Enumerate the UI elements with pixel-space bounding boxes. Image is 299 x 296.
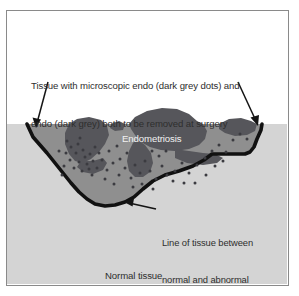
microscopic-endo-dot: [61, 174, 64, 177]
microscopic-endo-dot: [88, 168, 91, 171]
endometriosis-label: Endometriosis: [122, 133, 182, 145]
microscopic-endo-dot: [84, 156, 87, 159]
microscopic-endo-dot: [132, 186, 135, 189]
microscopic-endo-dot: [134, 164, 137, 167]
microscopic-endo-dot: [86, 163, 89, 166]
microscopic-endo-dot: [63, 165, 66, 168]
microscopic-endo-dot: [188, 172, 191, 175]
microscopic-endo-dot: [91, 174, 94, 177]
microscopic-endo-dot: [196, 164, 199, 167]
microscopic-endo-dot: [205, 174, 208, 177]
microscopic-endo-dot: [183, 182, 186, 185]
microscopic-endo-dot: [144, 160, 147, 163]
microscopic-endo-dot: [152, 188, 155, 191]
microscopic-endo-dot: [155, 178, 158, 181]
microscopic-endo-dot: [78, 161, 81, 164]
microscopic-endo-dot: [166, 174, 169, 177]
microscopic-endo-dot: [104, 178, 107, 181]
microscopic-endo-dot: [112, 162, 115, 165]
microscopic-endo-dot: [73, 167, 76, 170]
microscopic-endo-dot: [141, 183, 144, 186]
microscopic-endo-dot: [139, 172, 142, 175]
microscopic-endo-dot: [246, 138, 249, 141]
microscopic-endo-dot: [130, 177, 133, 180]
microscopic-endo-dot: [194, 182, 197, 185]
microscopic-endo-dot: [172, 180, 175, 183]
figure-root: Tissue with microscopic endo (dark grey …: [0, 0, 299, 296]
boundary-caption: Line of tissue between normal and abnorm…: [162, 212, 253, 286]
microscopic-endo-dot: [81, 170, 84, 173]
microscopic-endo-dot: [118, 174, 121, 177]
normal-tissue-label: Normal tissue: [105, 270, 162, 282]
microscopic-endo-dot: [214, 165, 217, 168]
boundary-caption-line-1: Line of tissue between: [162, 237, 253, 249]
microscopic-endo-dot: [222, 160, 225, 163]
microscopic-endo-dot: [181, 162, 184, 165]
microscopic-endo-dot: [149, 170, 152, 173]
microscopic-endo-dot: [96, 167, 99, 170]
microscopic-endo-dot: [69, 159, 72, 162]
figure-frame: Tissue with microscopic endo (dark grey …: [6, 10, 289, 286]
microscopic-endo-dot: [113, 183, 116, 186]
boundary-caption-line-2: normal and abnormal: [162, 274, 253, 286]
microscopic-endo-dot: [124, 167, 127, 170]
top-caption-line-1: Tissue with microscopic endo (dark grey …: [31, 80, 240, 93]
microscopic-endo-dot: [174, 170, 177, 173]
microscopic-endo-dot: [92, 160, 95, 163]
microscopic-endo-dot: [161, 165, 164, 168]
microscopic-endo-dot: [106, 169, 109, 172]
microscopic-endo-dot: [101, 159, 104, 162]
top-caption-line-2: endo (dark grey) both to be removed at s…: [31, 118, 240, 131]
microscopic-endo-dot: [204, 157, 207, 160]
microscopic-endo-dot: [119, 158, 122, 161]
